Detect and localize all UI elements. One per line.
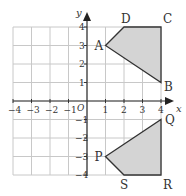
x-tick-label: 1: [103, 105, 109, 115]
x-tick-label: −1: [64, 105, 77, 115]
vertex-label-p: P: [95, 150, 103, 164]
origin-label: O: [77, 103, 85, 113]
y-axis-arrow-icon: [83, 12, 91, 21]
x-tick-label: 3: [140, 105, 146, 115]
x-tick-label: −3: [27, 105, 41, 115]
shape-abcd: [106, 27, 162, 83]
shape-pqrs: [106, 120, 162, 176]
y-tick-label: 2: [79, 59, 85, 69]
x-tick-label: −4: [8, 105, 22, 115]
y-axis-label: y: [75, 7, 82, 18]
coordinate-diagram: x y O −4−3−2−112344321−1−2−3−4 ADCBPQRS: [0, 0, 186, 196]
x-tick-label: 4: [158, 105, 164, 115]
vertex-label-b: B: [164, 80, 173, 94]
x-tick-label: 2: [121, 105, 127, 115]
x-axis-label: x: [176, 103, 182, 114]
vertex-label-c: C: [163, 12, 172, 26]
y-tick-label: 1: [79, 78, 85, 88]
vertex-label-s: S: [120, 178, 128, 192]
vertex-label-r: R: [163, 178, 173, 192]
x-axis-arrow-icon: [165, 97, 174, 105]
vertex-label-a: A: [94, 39, 104, 53]
vertex-label-d: D: [121, 12, 131, 26]
x-tick-label: −2: [45, 105, 58, 115]
vertex-label-q: Q: [165, 113, 175, 127]
